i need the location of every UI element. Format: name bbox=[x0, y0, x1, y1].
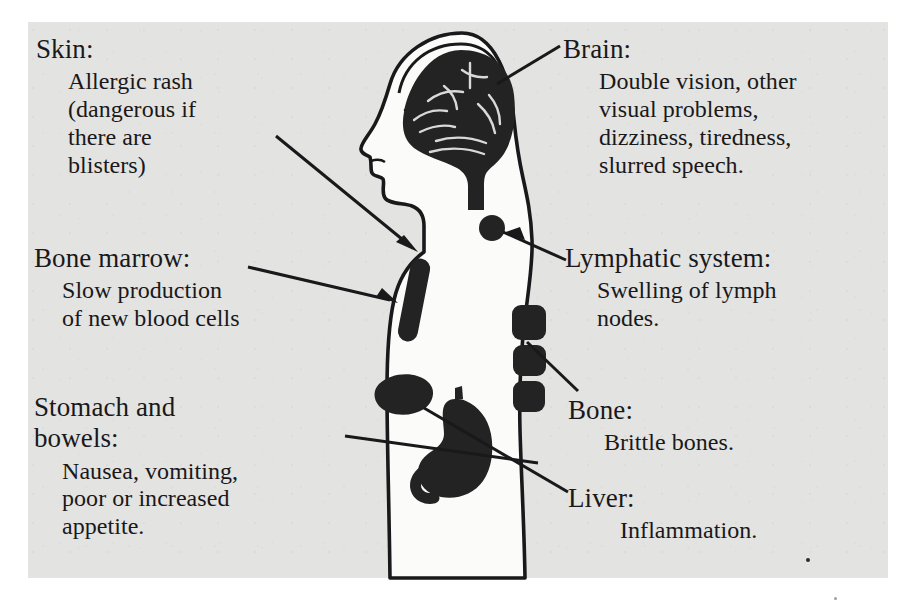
diagram-figure: Skin: Allergic rash (dangerous if there … bbox=[0, 0, 900, 612]
vertebrae-group bbox=[512, 305, 546, 412]
vertebra-3 bbox=[513, 381, 545, 412]
label-skin-heading: Skin: bbox=[36, 34, 196, 65]
label-skin: Skin: Allergic rash (dangerous if there … bbox=[36, 34, 196, 180]
label-lymphatic-system: Lymphatic system: Swelling of lymph node… bbox=[565, 243, 777, 333]
lymph-node bbox=[479, 215, 505, 241]
label-brain-heading: Brain: bbox=[563, 34, 797, 65]
label-bone-marrow-body: Slow production of new blood cells bbox=[62, 277, 240, 333]
label-liver-body: Inflammation. bbox=[620, 517, 757, 545]
oesophagus bbox=[455, 386, 463, 400]
label-liver-heading: Liver: bbox=[568, 483, 757, 514]
label-liver: Liver: Inflammation. bbox=[568, 483, 757, 545]
label-bone-marrow: Bone marrow: Slow production of new bloo… bbox=[34, 243, 240, 333]
label-bone-marrow-heading: Bone marrow: bbox=[34, 243, 240, 274]
vertebra-2 bbox=[513, 345, 546, 376]
brain-leader-line bbox=[497, 46, 560, 84]
label-lymphatic-system-body: Swelling of lymph nodes. bbox=[597, 277, 777, 333]
label-bone: Bone: Brittle bones. bbox=[568, 395, 734, 457]
marrow-leader-line bbox=[248, 267, 390, 300]
label-stomach-bowels: Stomach and bowels: Nausea, vomiting, po… bbox=[34, 392, 238, 541]
label-bone-heading: Bone: bbox=[568, 395, 734, 426]
scan-speck-1 bbox=[806, 558, 810, 562]
vertebra-1 bbox=[512, 305, 546, 340]
label-stomach-bowels-heading: Stomach and bowels: bbox=[34, 392, 238, 455]
scan-speck-2 bbox=[834, 597, 837, 600]
label-lymphatic-system-heading: Lymphatic system: bbox=[565, 243, 777, 274]
label-skin-body: Allergic rash (dangerous if there are bl… bbox=[68, 68, 196, 179]
label-bone-body: Brittle bones. bbox=[604, 429, 734, 457]
label-brain: Brain: Double vision, other visual probl… bbox=[563, 34, 797, 180]
label-brain-body: Double vision, other visual problems, di… bbox=[599, 68, 797, 179]
label-stomach-bowels-body: Nausea, vomiting, poor or increased appe… bbox=[62, 458, 238, 541]
